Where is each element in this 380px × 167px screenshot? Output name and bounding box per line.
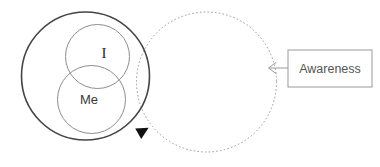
me-label: Me xyxy=(80,92,98,107)
direction-arrowhead-icon xyxy=(135,123,151,139)
i-label: I xyxy=(102,45,107,61)
diagram-canvas: I Me Awareness xyxy=(0,0,380,167)
venn-diagram: I Me Awareness xyxy=(0,0,380,167)
i-circle xyxy=(66,25,130,89)
awareness-dotted-circle xyxy=(137,12,277,152)
self-outer-circle xyxy=(22,12,150,140)
awareness-label: Awareness xyxy=(299,62,361,76)
